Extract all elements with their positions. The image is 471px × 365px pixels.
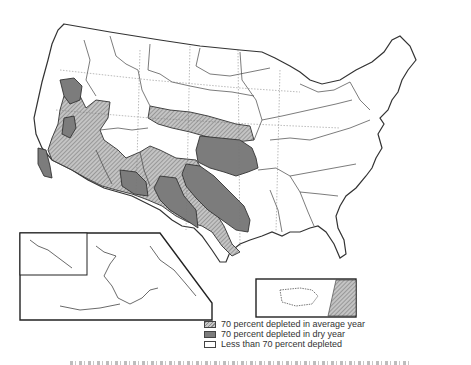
legend-item-dry: 70 percent depleted in dry year	[204, 329, 365, 339]
legend-item-average: 70 percent depleted in average year	[204, 319, 365, 329]
hatched-swatch-icon	[204, 321, 216, 328]
us-water-depletion-map	[0, 0, 471, 365]
puerto-rico-inset	[256, 279, 356, 317]
empty-swatch-icon	[204, 341, 216, 348]
solid-swatch-icon	[204, 331, 216, 338]
map-legend: 70 percent depleted in average year 70 p…	[204, 319, 365, 349]
legend-label: 70 percent depleted in dry year	[221, 329, 345, 339]
alaska-hawaii-inset	[20, 233, 212, 320]
legend-item-less: Less than 70 percent depleted	[204, 339, 365, 349]
figure-caption-cropped	[70, 356, 410, 365]
legend-label: 70 percent depleted in average year	[221, 319, 365, 329]
legend-label: Less than 70 percent depleted	[221, 339, 342, 349]
